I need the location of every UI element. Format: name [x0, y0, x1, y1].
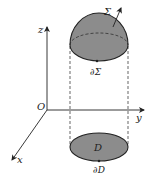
region-d: D ∂D — [70, 133, 128, 175]
z-axis: z — [37, 24, 47, 110]
surface-projection-diagram: z y x O Σ ∂Σ D ∂D — [0, 0, 155, 177]
surface-label: Σ — [103, 6, 112, 17]
z-axis-label: z — [37, 24, 44, 35]
y-axis: y — [47, 110, 144, 123]
surface-boundary-label: ∂Σ — [90, 67, 102, 77]
x-axis-label: x — [17, 154, 23, 165]
region-label: D — [93, 142, 102, 153]
y-axis-label: y — [135, 112, 142, 123]
region-boundary-label: ∂D — [93, 165, 105, 175]
x-axis: x — [12, 110, 47, 165]
origin-label: O — [37, 101, 45, 112]
surface-sigma: Σ ∂Σ — [70, 6, 128, 77]
